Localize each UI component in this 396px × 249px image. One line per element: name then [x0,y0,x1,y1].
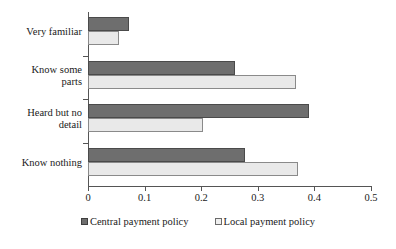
bar-group-know-some-parts [88,56,371,100]
category-label-heard-but-no-detail: Heard but no detail [27,107,82,130]
category-label-know-nothing: Know nothing [22,157,82,169]
bar-group-know-nothing [88,143,371,187]
bar-central-heard-but-no-detail [88,104,309,118]
x-tick-label: 0.5 [364,192,377,204]
plot-area [88,12,371,186]
bar-central-very-familiar [88,17,129,31]
x-tick-mark [371,187,372,191]
bar-local-heard-but-no-detail [88,118,203,132]
bar-group-very-familiar [88,12,371,56]
x-tick-mark [258,187,259,191]
bar-central-know-nothing [88,148,245,162]
x-axis-line [88,186,372,187]
x-tick-mark [88,187,89,191]
legend-label-central: Central payment policy [90,216,189,227]
legend: Central payment policy Local payment pol… [0,216,396,227]
x-tick-mark [201,187,202,191]
legend-item-local-payment-policy: Local payment policy [215,216,316,227]
legend-item-central-payment-policy: Central payment policy [81,216,189,227]
x-tick-label: 0.1 [138,192,151,204]
bar-local-know-nothing [88,162,298,176]
legend-label-local: Local payment policy [224,216,316,227]
outlined-light-square-icon [215,218,222,225]
bar-local-know-some-parts [88,75,296,89]
x-tick-label: 0 [85,192,90,204]
x-tick-mark [145,187,146,191]
bar-chart: Very familiar Know some parts Heard but … [0,0,396,249]
category-label-very-familiar: Very familiar [26,26,82,38]
bar-local-very-familiar [88,31,119,45]
x-tick-label: 0.3 [251,192,264,204]
x-tick-mark [314,187,315,191]
x-tick-label: 0.4 [308,192,321,204]
bar-central-know-some-parts [88,61,235,75]
bar-group-heard-but-no-detail [88,99,371,143]
x-tick-label: 0.2 [195,192,208,204]
category-label-know-some-parts: Know some parts [32,64,82,87]
filled-dark-square-icon [81,218,88,225]
